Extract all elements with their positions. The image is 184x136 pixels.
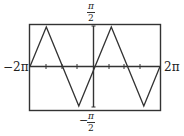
- y-min-num: π: [87, 112, 95, 123]
- y-max-label: π 2: [87, 2, 95, 23]
- y-max-den: 2: [87, 13, 95, 23]
- x-max-label: 2π: [164, 61, 180, 73]
- y-min-label: π 2: [87, 112, 95, 133]
- y-max-num: π: [87, 2, 95, 13]
- y-min-den: 2: [87, 123, 95, 133]
- x-min-label: −2π: [3, 61, 29, 73]
